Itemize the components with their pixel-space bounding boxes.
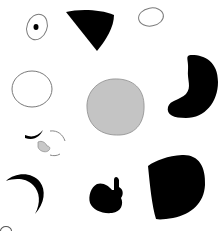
wedge-shape <box>66 10 114 51</box>
face-fragments-shape <box>25 130 65 156</box>
kidney-shape <box>168 55 218 118</box>
shapes-figure <box>0 0 224 231</box>
head-arc <box>50 131 65 141</box>
d-shape <box>148 155 205 219</box>
crescent-shape <box>6 174 44 214</box>
nose-blob <box>38 141 50 151</box>
knob-blob-shape <box>89 177 122 213</box>
gray-blob-shape <box>87 79 144 135</box>
eye-oval-shape <box>23 11 51 42</box>
circle-outline-shape <box>12 71 52 107</box>
mouth-stroke <box>50 154 60 156</box>
small-oval-shape <box>137 6 165 28</box>
brow-stroke <box>25 130 43 139</box>
caption-text <box>10 224 224 231</box>
pupil-dot <box>34 24 39 30</box>
